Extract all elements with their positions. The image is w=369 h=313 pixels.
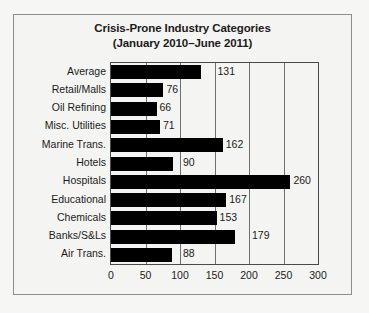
- bar: [111, 175, 290, 189]
- category-label: Hospitals: [4, 175, 106, 186]
- bar-value-label: 260: [293, 175, 311, 186]
- bar-value-label: 167: [229, 194, 247, 205]
- bar: [111, 83, 163, 97]
- plot-area: [110, 62, 319, 265]
- category-label: Hotels: [4, 157, 106, 168]
- x-tick-label-250: 250: [275, 269, 293, 281]
- chart-figure: Crisis-Prone Industry Categories (Januar…: [0, 0, 369, 313]
- category-label: Misc. Utilities: [4, 120, 106, 131]
- x-tick-label-100: 100: [171, 269, 189, 281]
- bar: [111, 193, 226, 207]
- bar: [111, 230, 235, 244]
- category-label: Oil Refining: [4, 102, 106, 113]
- bar: [111, 65, 201, 79]
- x-tick-label-300: 300: [309, 269, 327, 281]
- category-label: Retail/Malls: [4, 84, 106, 95]
- category-label: Chemicals: [4, 212, 106, 223]
- bar-value-label: 90: [183, 157, 195, 168]
- category-label: Average: [4, 66, 106, 77]
- bar-value-label: 179: [252, 230, 270, 241]
- bar: [111, 138, 223, 152]
- bar-value-label: 71: [163, 120, 175, 131]
- bar-value-label: 162: [226, 139, 244, 150]
- bar-value-label: 153: [220, 212, 238, 223]
- bar-value-label: 88: [183, 248, 195, 259]
- x-tick-label-200: 200: [240, 269, 258, 281]
- category-label: Marine Trans.: [4, 139, 106, 150]
- category-label: Educational: [4, 194, 106, 205]
- bar: [111, 102, 157, 116]
- bar-value-label: 66: [160, 102, 172, 113]
- x-tick-label-0: 0: [108, 269, 114, 281]
- gridline-250: [284, 63, 285, 264]
- bar: [111, 211, 217, 225]
- bar-value-label: 76: [166, 84, 178, 95]
- x-tick-label-150: 150: [206, 269, 224, 281]
- bar: [111, 120, 160, 134]
- category-label: Air Trans.: [4, 248, 106, 259]
- category-label: Banks/S&Ls: [4, 230, 106, 241]
- x-tick-label-50: 50: [140, 269, 152, 281]
- gridline-200: [249, 63, 250, 264]
- category-axis-labels: AverageRetail/MallsOil RefiningMisc. Uti…: [0, 0, 106, 313]
- bar: [111, 248, 172, 262]
- bar-value-label: 131: [218, 66, 236, 77]
- bar: [111, 157, 173, 171]
